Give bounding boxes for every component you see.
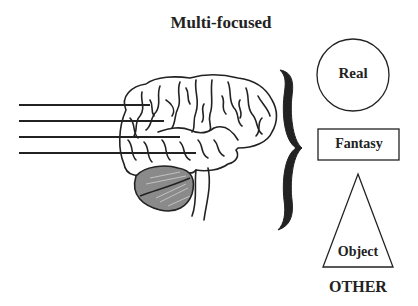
cerebellum-icon bbox=[135, 166, 194, 211]
other-label: OTHER bbox=[318, 278, 398, 296]
diagram-canvas bbox=[0, 0, 418, 306]
curly-brace-icon bbox=[278, 70, 302, 230]
object-label: Object bbox=[323, 244, 393, 260]
fantasy-label: Fantasy bbox=[318, 136, 400, 152]
real-label: Real bbox=[321, 65, 385, 82]
